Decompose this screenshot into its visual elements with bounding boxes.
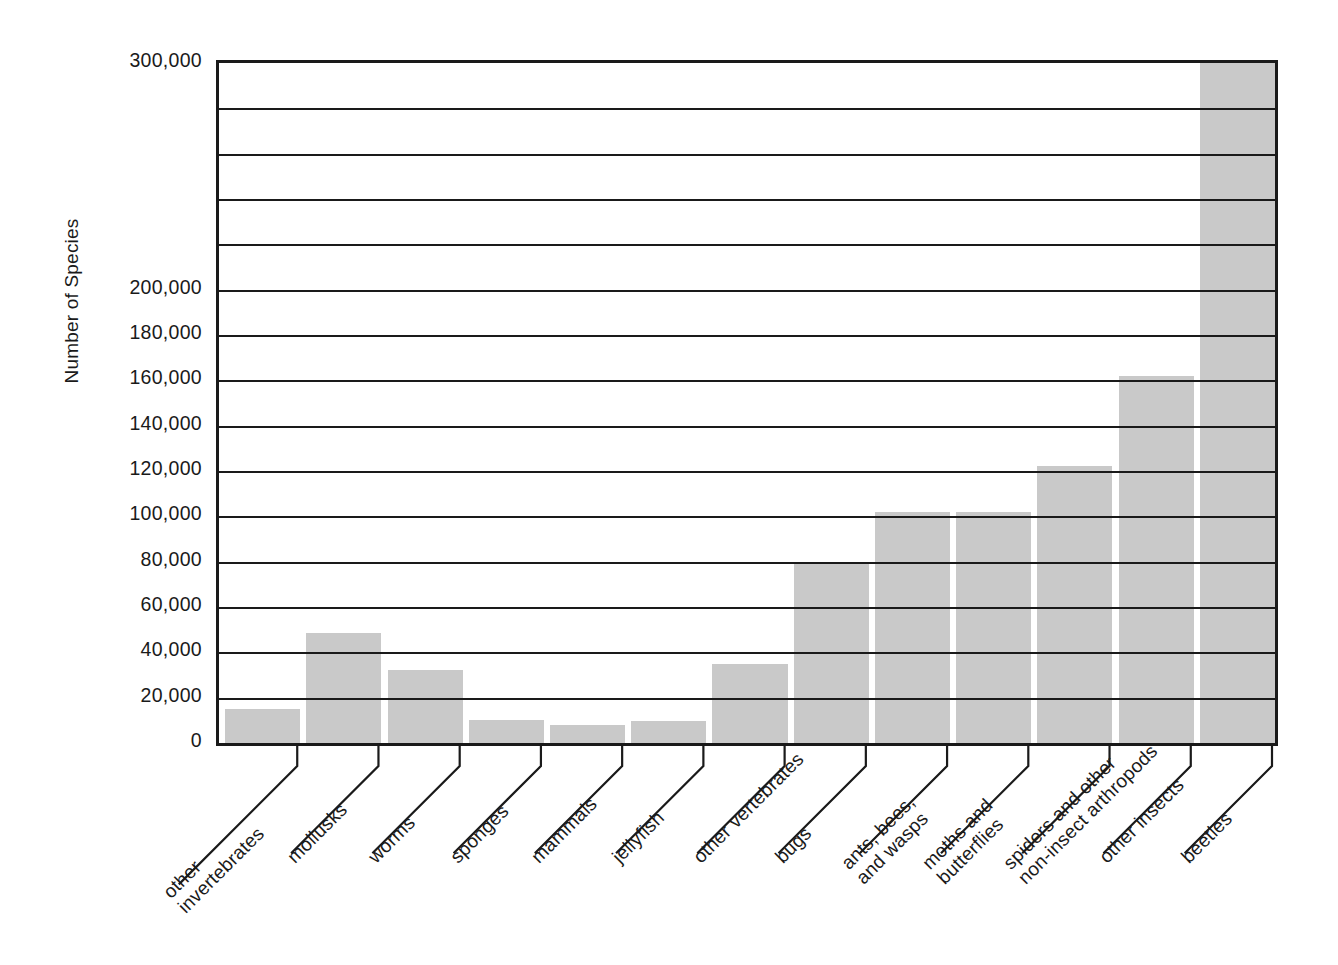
x-axis-category-label: bugs [770, 823, 815, 868]
gridline [219, 426, 1275, 428]
gridline [219, 108, 1275, 110]
x-axis-category-label: worms [364, 812, 419, 867]
category-label-line2: non-insect arthropods [1014, 741, 1162, 889]
y-tick-label: 60,000 [60, 593, 202, 616]
category-leader-line [454, 740, 541, 853]
x-axis-category-label: spiders and othernon-insect arthropods [999, 726, 1162, 889]
gridline [219, 199, 1275, 201]
y-tick-label: 120,000 [60, 457, 202, 480]
category-leader-line [616, 740, 703, 853]
category-label-line1: jellyfish [608, 807, 668, 867]
y-tick-label: 300,000 [60, 49, 202, 72]
category-label-line1: other insects [1095, 775, 1188, 868]
category-label-line1: mollusks [283, 799, 351, 867]
y-tick-label: 140,000 [60, 411, 202, 434]
x-axis-category-label: beetles [1177, 808, 1236, 867]
plot-area [216, 60, 1278, 746]
bar [712, 664, 787, 743]
y-tick-label: 160,000 [60, 366, 202, 389]
gridline [219, 290, 1275, 292]
x-axis-category-label: mollusks [283, 799, 351, 867]
x-axis-category-label: ants, bees,and wasps [837, 791, 934, 888]
category-leader-line [1022, 740, 1109, 853]
y-tick-label: 180,000 [60, 321, 202, 344]
category-leader-line [697, 740, 784, 853]
category-label-line1: spiders and other [999, 753, 1120, 874]
category-leader-line [779, 740, 866, 853]
gridline [219, 380, 1275, 382]
bar [306, 633, 381, 743]
gridline [219, 652, 1275, 654]
category-label-line2: invertebrates [174, 823, 269, 918]
gridline [219, 471, 1275, 473]
species-bar-chart: Number of Species 020,00040,00060,00080,… [0, 0, 1338, 965]
category-leader-line [941, 740, 1028, 853]
x-axis-category-label: sponges [446, 801, 513, 868]
bar [225, 709, 300, 743]
category-label-line1: ants, bees, [837, 791, 919, 873]
category-label-line2: butterflies [933, 810, 1012, 889]
gridline [219, 335, 1275, 337]
category-label-line1: other [159, 856, 205, 902]
category-leader-line [860, 740, 947, 853]
gridline [219, 516, 1275, 518]
category-leader-line [179, 740, 297, 884]
y-tick-label: 80,000 [60, 547, 202, 570]
x-axis-category-label: mammals [527, 793, 601, 867]
bar [388, 670, 463, 743]
x-axis-category-label: other vertebrates [689, 749, 808, 868]
bar [956, 512, 1031, 743]
x-axis-category-label: moths andbutterflies [918, 795, 1012, 889]
y-tick-label: 0 [60, 729, 202, 752]
x-axis-category-label: otherinvertebrates [159, 808, 269, 918]
gridline [219, 244, 1275, 246]
y-tick-label: 40,000 [60, 638, 202, 661]
category-label-line1: worms [364, 812, 419, 867]
category-leader-line [291, 740, 378, 853]
category-leader-line [1185, 740, 1272, 853]
category-leader-line [1103, 740, 1190, 853]
bar [631, 721, 706, 743]
category-label-line1: other vertebrates [689, 749, 808, 868]
bar [1037, 466, 1112, 743]
category-label-line1: sponges [446, 801, 513, 868]
y-tick-label: 20,000 [60, 683, 202, 706]
gridline [219, 154, 1275, 156]
gridline [219, 562, 1275, 564]
x-axis-category-label: other insects [1095, 775, 1188, 868]
bar [1119, 376, 1194, 743]
y-tick-label: 200,000 [60, 275, 202, 298]
category-leader-line [535, 740, 622, 853]
x-axis-category-label: jellyfish [608, 807, 668, 867]
category-label-line1: mammals [527, 793, 601, 867]
bar [1200, 63, 1275, 743]
bar [550, 725, 625, 743]
gridline [219, 698, 1275, 700]
y-tick-label: 100,000 [60, 502, 202, 525]
category-label-line1: bugs [770, 823, 815, 868]
category-label-line1: moths and [918, 795, 997, 874]
category-label-line2: and wasps [852, 807, 934, 889]
bar [469, 720, 544, 743]
gridline [219, 607, 1275, 609]
bar [875, 512, 950, 743]
category-label-line1: beetles [1177, 808, 1236, 867]
category-leader-line [372, 740, 459, 853]
